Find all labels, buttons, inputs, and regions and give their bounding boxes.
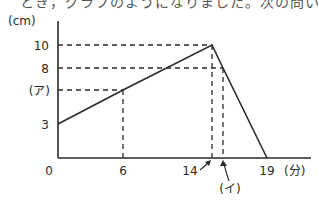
x-tick-0: 0 — [45, 164, 53, 178]
y-axis-unit-label: (cm) — [8, 14, 36, 28]
arrow-i-icon — [220, 160, 229, 181]
y-tick-3: 3 — [41, 118, 49, 132]
x-tick-6: 6 — [119, 164, 127, 178]
line-chart: (cm) 10 8 (ア) 3 0 6 14 19 (分) (イ) — [0, 0, 319, 215]
reference-lines — [58, 45, 223, 158]
y-tick-8: 8 — [41, 62, 49, 76]
x-tick-14: 14 — [182, 164, 197, 178]
x-tick-19: 19 — [259, 164, 274, 178]
x-axis-unit-label: (分) — [284, 164, 305, 178]
x-tick-i: (イ) — [219, 182, 240, 196]
y-tick-10: 10 — [34, 39, 49, 53]
data-line — [58, 45, 267, 158]
y-tick-a: (ア) — [29, 84, 50, 98]
arrow-14-icon — [200, 160, 211, 170]
